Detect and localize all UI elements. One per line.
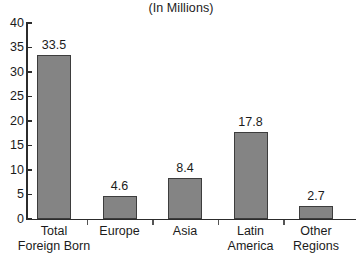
y-axis-tick-label: 15 bbox=[0, 139, 24, 151]
y-axis-tick bbox=[27, 218, 32, 219]
y-axis-tick-label: 40 bbox=[0, 17, 24, 29]
category-label-line1: Asia bbox=[173, 224, 197, 238]
bar[interactable] bbox=[168, 178, 202, 219]
bar-value-label: 33.5 bbox=[24, 39, 84, 52]
category-label-line2: Foreign Born bbox=[14, 239, 94, 254]
bar[interactable] bbox=[103, 196, 137, 219]
x-axis-category-label: OtherRegions bbox=[276, 224, 356, 254]
category-label-line2: Regions bbox=[276, 239, 356, 254]
y-axis-tick bbox=[27, 169, 32, 170]
y-axis-tick-label: 10 bbox=[0, 164, 24, 176]
y-axis-tick bbox=[27, 145, 32, 146]
bar-chart: (In Millions) 4035302520151050 33.54.68.… bbox=[0, 0, 362, 264]
y-axis-tick bbox=[27, 96, 32, 97]
bar-value-label: 4.6 bbox=[90, 180, 150, 193]
y-axis-tick-label: 0 bbox=[0, 213, 24, 225]
category-label-line1: Total bbox=[41, 224, 67, 238]
y-axis-tick bbox=[27, 194, 32, 195]
bar[interactable] bbox=[299, 206, 333, 219]
bar-value-label: 17.8 bbox=[221, 116, 281, 129]
plot-area: 4035302520151050 33.54.68.417.82.7 Total… bbox=[0, 0, 362, 264]
y-axis-tick bbox=[27, 120, 32, 121]
y-axis-tick-label: 30 bbox=[0, 66, 24, 78]
bar-value-label: 2.7 bbox=[286, 190, 346, 203]
bar-value-label: 8.4 bbox=[155, 162, 215, 175]
category-label-line1: Other bbox=[300, 224, 331, 238]
y-axis-tick-label: 35 bbox=[0, 41, 24, 53]
y-axis-tick bbox=[27, 71, 32, 72]
y-axis-tick-label: 5 bbox=[0, 188, 24, 200]
y-axis-tick-label: 20 bbox=[0, 115, 24, 127]
y-axis-tick-label: 25 bbox=[0, 90, 24, 102]
category-label-line1: Europe bbox=[99, 224, 139, 238]
bar[interactable] bbox=[37, 55, 71, 219]
bar[interactable] bbox=[234, 132, 268, 219]
category-label-line1: Latin bbox=[237, 224, 264, 238]
y-axis-tick bbox=[27, 22, 32, 23]
